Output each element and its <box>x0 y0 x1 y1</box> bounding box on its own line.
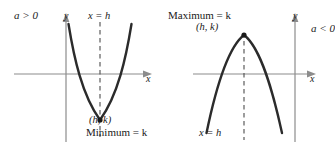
y-axis-label: y <box>293 11 297 21</box>
x-axis <box>193 71 316 78</box>
axis-of-symmetry-label: x = h <box>88 11 110 22</box>
downward-parabola-graphic <box>163 0 327 150</box>
x-axis <box>14 71 152 78</box>
condition-label-a-positive: a > 0 <box>14 10 38 21</box>
condition-label-a-negative: a < 0 <box>311 23 335 34</box>
vertex-coordinates-label: (h, k) <box>89 115 111 126</box>
upward-parabola-panel: a > 0 y x = h x (h, k) Minimum = k <box>0 0 164 150</box>
y-axis-label: y <box>64 11 68 21</box>
downward-parabola-panel: Maximum = k (h, k) y a < 0 x x = h <box>163 0 327 150</box>
maximum-value-label: Maximum = k <box>168 10 231 21</box>
vertex-point <box>241 32 246 37</box>
y-axis <box>292 13 299 142</box>
x-axis-label: x <box>146 74 150 84</box>
x-axis-label: x <box>310 74 314 84</box>
y-axis <box>63 13 70 142</box>
minimum-value-label: Minimum = k <box>86 127 147 138</box>
axis-of-symmetry-label: x = h <box>199 128 221 139</box>
vertex-coordinates-label: (h, k) <box>196 22 218 33</box>
